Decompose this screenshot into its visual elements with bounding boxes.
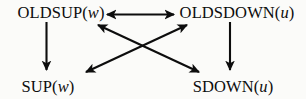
node-oldsup: OLDSUP(w) <box>17 5 104 22</box>
node-oldsup-variable: w <box>88 3 99 22</box>
node-sup-prefix: SUP( <box>22 77 58 96</box>
edge-oldsup-sdown <box>98 25 199 72</box>
node-oldsdown-suffix: ) <box>289 3 295 22</box>
relation-diagram: OLDSUP(w) OLDSDOWN(u) SUP(w) SDOWN(u) <box>0 0 306 99</box>
node-sdown-variable: u <box>259 77 267 96</box>
node-sdown: SDOWN(u) <box>193 79 274 96</box>
node-sdown-suffix: ) <box>268 77 274 96</box>
edge-oldsdown-sup <box>86 25 187 72</box>
node-sdown-prefix: SDOWN( <box>193 77 260 96</box>
node-sup-suffix: ) <box>69 77 75 96</box>
node-oldsup-prefix: OLDSUP( <box>17 3 87 22</box>
node-oldsdown-prefix: OLDSDOWN( <box>180 3 281 22</box>
node-oldsdown-variable: u <box>280 3 288 22</box>
node-sup: SUP(w) <box>22 79 75 96</box>
node-sup-variable: w <box>58 77 69 96</box>
node-oldsdown: OLDSDOWN(u) <box>180 5 295 22</box>
node-oldsup-suffix: ) <box>99 3 105 22</box>
